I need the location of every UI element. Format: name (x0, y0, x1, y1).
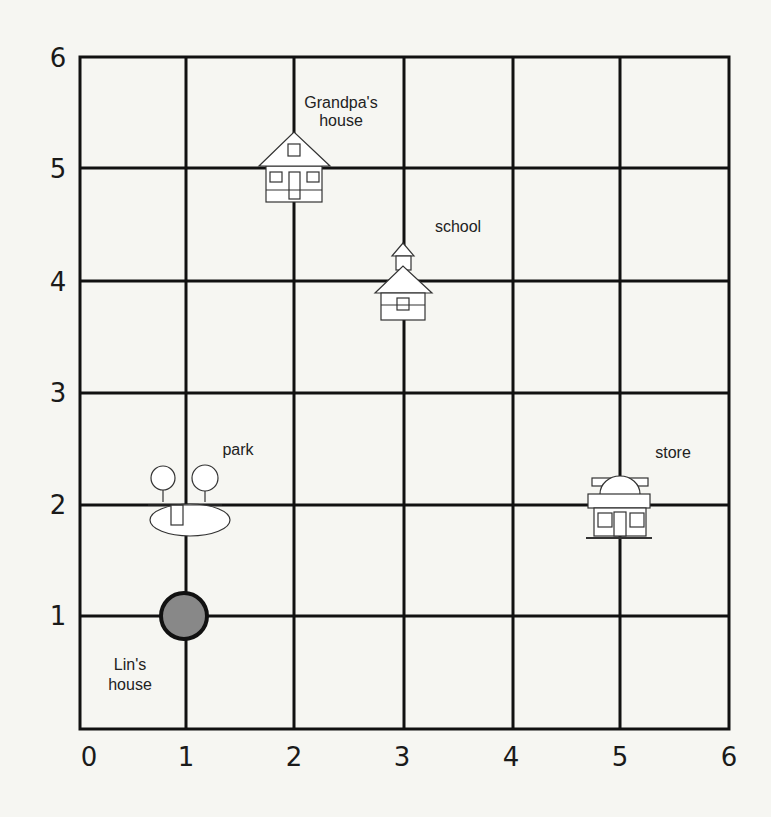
lins-house-label-line1: Lin's (114, 656, 146, 674)
lins-house-label-line2: house (108, 676, 152, 694)
y-tick-3: 3 (50, 378, 67, 408)
grandpas-house-label-line1: Grandpa's (304, 94, 377, 112)
x-tick-3: 3 (394, 742, 411, 772)
x-tick-4: 4 (503, 742, 520, 772)
x-tick-0: 0 (81, 742, 98, 772)
y-tick-4: 4 (50, 267, 67, 297)
y-tick-2: 2 (50, 490, 67, 520)
x-tick-2: 2 (286, 742, 303, 772)
house-icon (259, 132, 330, 202)
y-tick-1: 1 (50, 601, 67, 631)
lins-house-marker (161, 593, 207, 639)
y-tick-6: 6 (50, 43, 67, 73)
store-icon (586, 476, 652, 538)
park-icon (148, 465, 230, 536)
school-label: school (435, 218, 481, 236)
x-tick-1: 1 (178, 742, 195, 772)
store-label: store (655, 444, 691, 462)
park-label: park (222, 441, 253, 459)
x-tick-6: 6 (721, 742, 738, 772)
y-tick-5: 5 (50, 154, 67, 184)
coordinate-grid (0, 0, 771, 817)
grandpas-house-label-line2: house (319, 112, 363, 130)
x-tick-5: 5 (612, 742, 629, 772)
